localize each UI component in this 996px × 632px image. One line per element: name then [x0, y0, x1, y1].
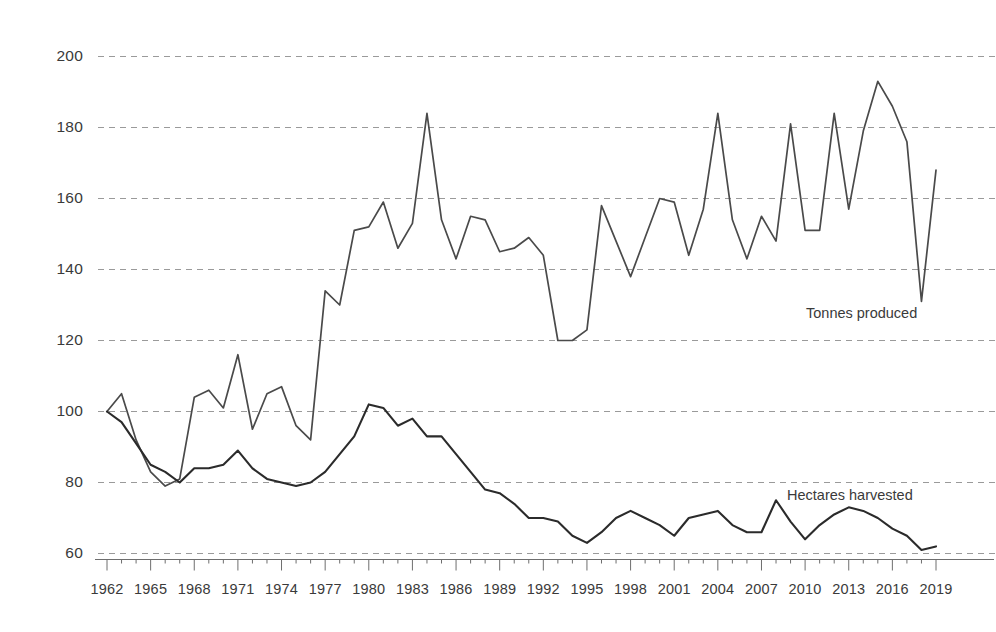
x-tick-label: 2004	[701, 581, 734, 597]
x-tick-label: 1971	[221, 581, 254, 597]
x-tick-label: 1968	[178, 581, 211, 597]
x-tick-label: 1965	[134, 581, 167, 597]
y-tick-label: 180	[57, 118, 84, 135]
series-line-tonnes-produced	[107, 81, 936, 486]
y-axis-tick-labels: 6080100120140160180200	[57, 47, 84, 561]
x-tick-label: 1962	[90, 581, 123, 597]
series-line-hectares-harvested	[107, 404, 936, 550]
x-tick-label: 2007	[745, 581, 778, 597]
x-tick-label: 2010	[789, 581, 822, 597]
y-tick-label: 100	[57, 402, 84, 419]
x-tick-label: 1974	[265, 581, 298, 597]
x-tick-label: 2016	[876, 581, 909, 597]
series-annotation-tonnes-produced: Tonnes produced	[806, 305, 917, 321]
series-annotations: Tonnes producedHectares harvested	[787, 305, 917, 503]
chart-container: 6080100120140160180200 19621965196819711…	[0, 0, 996, 632]
x-tick-label: 1980	[352, 581, 385, 597]
x-tick-label: 2001	[658, 581, 691, 597]
line-chart: 6080100120140160180200 19621965196819711…	[0, 0, 996, 632]
x-tick-label: 1995	[570, 581, 603, 597]
x-tick-label: 2013	[832, 581, 865, 597]
y-tick-label: 80	[65, 473, 83, 490]
y-tick-label: 140	[57, 260, 84, 277]
x-tick-label: 1986	[440, 581, 473, 597]
y-tick-label: 160	[57, 189, 84, 206]
x-axis-tick-labels: 1962196519681971197419771980198319861989…	[90, 581, 952, 597]
x-tick-label: 1983	[396, 581, 429, 597]
x-tick-label: 1998	[614, 581, 647, 597]
series-annotation-hectares-harvested: Hectares harvested	[787, 487, 913, 503]
x-tick-label: 1992	[527, 581, 560, 597]
x-tick-label: 2019	[919, 581, 952, 597]
x-tick-label: 1977	[309, 581, 342, 597]
y-tick-label: 60	[65, 544, 83, 561]
x-tick-label: 1989	[483, 581, 516, 597]
y-tick-label: 120	[57, 331, 84, 348]
x-axis	[95, 560, 994, 571]
y-tick-label: 200	[57, 47, 84, 64]
